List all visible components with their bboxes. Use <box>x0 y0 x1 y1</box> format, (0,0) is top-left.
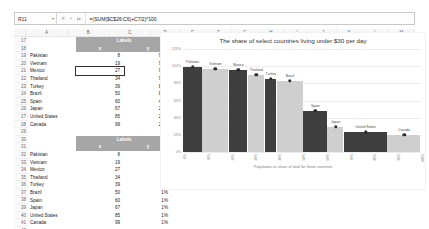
cell-country[interactable]: Turkey <box>28 83 76 91</box>
cell-value[interactable]: 99 <box>76 121 124 129</box>
row-header-19[interactable]: 19 <box>14 52 28 60</box>
cell-value[interactable]: 39 <box>76 83 124 91</box>
chart-bar[interactable] <box>183 67 202 152</box>
cell-country[interactable]: Pakistan <box>28 52 76 60</box>
chevron-down-icon[interactable]: ▾ <box>52 16 56 21</box>
row-header-29[interactable]: 29 <box>14 128 28 136</box>
cell-value[interactable]: 67 <box>76 204 124 212</box>
column-header-a[interactable]: A <box>26 29 68 36</box>
chart-bar[interactable] <box>277 81 303 152</box>
cell-country[interactable]: Pakistan <box>28 151 76 159</box>
cell-value[interactable]: 19 <box>76 159 124 167</box>
cell-value[interactable]: 99 <box>76 219 124 227</box>
chart-bar[interactable] <box>344 132 387 152</box>
row-header-34[interactable]: 34 <box>14 166 28 174</box>
cell-country[interactable]: Brazil <box>28 90 76 98</box>
cell-country[interactable]: Canada <box>28 219 76 227</box>
row-header-41[interactable]: 41 <box>14 219 28 227</box>
row-header-23[interactable]: 23 <box>14 83 28 91</box>
row-header-35[interactable]: 35 <box>14 174 28 182</box>
column-header-b[interactable]: B <box>68 29 110 36</box>
table-row[interactable]: Spain601% <box>28 197 415 205</box>
row-header-20[interactable]: 20 <box>14 60 28 68</box>
empty-cell[interactable] <box>28 45 76 53</box>
row-header-28[interactable]: 28 <box>14 121 28 129</box>
row-header-42[interactable]: 42 <box>14 227 28 229</box>
cell-value[interactable]: 8 <box>76 151 124 159</box>
cell-value[interactable]: 85 <box>76 212 124 220</box>
chart-bar[interactable] <box>229 70 248 152</box>
cell-country[interactable]: Brazil <box>28 189 76 197</box>
cell-percent[interactable]: 1% <box>124 219 172 227</box>
table-row[interactable]: United States851% <box>28 212 415 220</box>
cell-percent[interactable]: 1% <box>124 189 172 197</box>
cell-country[interactable]: Spain <box>28 98 76 106</box>
cell-value[interactable]: 60 <box>76 197 124 205</box>
row-header-33[interactable]: 33 <box>14 159 28 167</box>
row-header-17[interactable]: 17 <box>14 37 28 45</box>
cell-country[interactable]: Turkey <box>28 181 76 189</box>
row-header-18[interactable]: 18 <box>14 45 28 53</box>
cell-country[interactable]: Spain <box>28 197 76 205</box>
row-header-27[interactable]: 27 <box>14 113 28 121</box>
chart-object[interactable]: The share of select countries living und… <box>160 32 426 190</box>
cell-value[interactable]: 34 <box>76 174 124 182</box>
cell-country[interactable]: Japan <box>28 204 76 212</box>
row-header-22[interactable]: 22 <box>14 75 28 83</box>
empty-cell[interactable] <box>28 37 76 45</box>
cell-country[interactable]: Thailand <box>28 75 76 83</box>
row-header-25[interactable]: 25 <box>14 98 28 106</box>
cell-country[interactable]: Mexico <box>28 166 76 174</box>
chart-bar[interactable] <box>327 127 343 152</box>
cell-country[interactable]: United States <box>28 212 76 220</box>
cell-country[interactable]: Vietnam <box>28 159 76 167</box>
chart-bar[interactable] <box>265 79 276 152</box>
cell-value[interactable]: 27 <box>76 67 124 75</box>
column-header-c[interactable]: C <box>110 29 152 36</box>
enter-icon[interactable]: ✓ <box>69 12 73 25</box>
table-row[interactable]: Japan671% <box>28 204 415 212</box>
chart-bar[interactable] <box>202 69 228 152</box>
cell-value[interactable]: 50 <box>76 189 124 197</box>
cell-value[interactable]: 67 <box>76 105 124 113</box>
cell-country[interactable]: Vietnam <box>28 60 76 68</box>
cell-value[interactable]: 60 <box>76 98 124 106</box>
cell-country[interactable]: Thailand <box>28 174 76 182</box>
cell-value[interactable]: 39 <box>76 181 124 189</box>
cell-value[interactable]: 34 <box>76 75 124 83</box>
row-header-21[interactable]: 21 <box>14 67 28 75</box>
cancel-icon[interactable]: ✕ <box>61 12 65 25</box>
row-header-31[interactable]: 31 <box>14 143 28 151</box>
name-box[interactable]: R11 ▾ <box>15 13 57 24</box>
cell-value[interactable]: 27 <box>76 166 124 174</box>
row-header-36[interactable]: 36 <box>14 181 28 189</box>
cell-percent[interactable]: 1% <box>124 197 172 205</box>
row-header-30[interactable]: 30 <box>14 136 28 144</box>
cell-percent[interactable]: 1% <box>124 204 172 212</box>
row-header-40[interactable]: 40 <box>14 212 28 220</box>
empty-cell[interactable] <box>28 143 76 151</box>
cell-value[interactable]: 19 <box>76 60 124 68</box>
formula-input[interactable]: =(SUM($C$26:C6)+C7/2)*100 <box>86 16 414 22</box>
chart-bar[interactable] <box>387 135 420 152</box>
chart-bar[interactable] <box>248 75 264 152</box>
cell-value[interactable]: 85 <box>76 113 124 121</box>
cell-value[interactable]: 8 <box>76 52 124 60</box>
cell-percent[interactable]: 1% <box>124 212 172 220</box>
cell-country[interactable]: Canada <box>28 121 76 129</box>
chart-bar[interactable] <box>303 111 326 152</box>
row-header-32[interactable]: 32 <box>14 151 28 159</box>
row-header-37[interactable]: 37 <box>14 189 28 197</box>
row-header-24[interactable]: 24 <box>14 90 28 98</box>
cell-country[interactable]: Mexico <box>28 67 76 75</box>
row-header-26[interactable]: 26 <box>14 105 28 113</box>
row-header-39[interactable]: 39 <box>14 204 28 212</box>
insert-function-icon[interactable]: fx <box>77 12 81 25</box>
empty-cell[interactable] <box>28 136 76 144</box>
cell-country[interactable]: Japan <box>28 105 76 113</box>
cell-value[interactable]: 50 <box>76 90 124 98</box>
cell-country[interactable]: United States <box>28 113 76 121</box>
select-all-corner[interactable] <box>14 29 26 36</box>
row-header-38[interactable]: 38 <box>14 196 28 204</box>
table-row[interactable]: Canada991% <box>28 219 415 227</box>
